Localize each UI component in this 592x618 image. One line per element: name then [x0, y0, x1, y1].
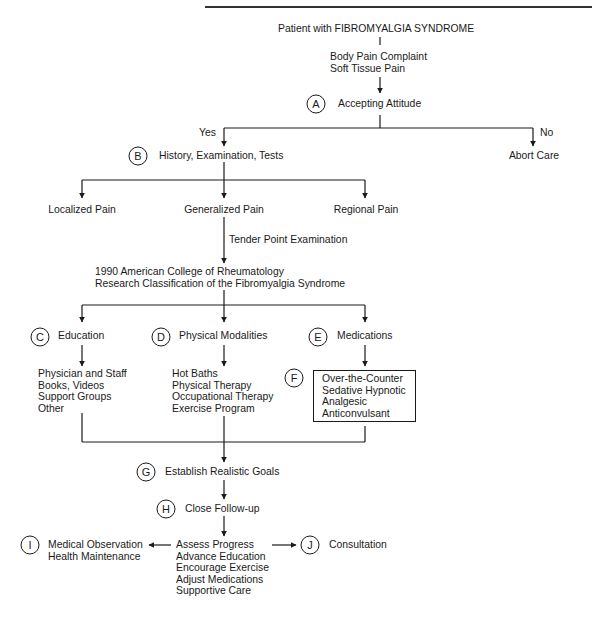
step-j-marker: J: [301, 536, 320, 555]
education-item: Other: [38, 403, 64, 415]
medication-item: Anticonvulsant: [322, 408, 390, 420]
step-g-label: Establish Realistic Goals: [165, 466, 279, 478]
step-e-label: Medications: [337, 330, 392, 342]
complaint-line-2: Soft Tissue Pain: [330, 63, 405, 75]
step-c-label: Education: [58, 330, 104, 342]
followup-item: Supportive Care: [176, 585, 251, 597]
step-a-label: Accepting Attitude: [338, 98, 421, 110]
medication-item: Over-the-Counter: [322, 373, 403, 385]
physical-item: Hot Baths: [172, 368, 218, 380]
complaint-line-1: Body Pain Complaint: [330, 51, 427, 63]
step-b-marker: B: [129, 147, 148, 166]
step-c-marker: C: [31, 328, 50, 347]
acr-line-1: 1990 American College of Rheumatology: [95, 266, 284, 278]
generalized-pain: Generalized Pain: [184, 204, 264, 216]
regional-pain: Regional Pain: [334, 204, 399, 216]
abort-care: Abort Care: [509, 150, 559, 162]
yes-label: Yes: [199, 127, 216, 139]
acr-line-2: Research Classification of the Fibromyal…: [95, 278, 345, 290]
education-item: Support Groups: [38, 391, 111, 403]
physical-item: Occupational Therapy: [172, 391, 273, 403]
step-d-marker: D: [152, 328, 171, 347]
step-h-marker: H: [157, 500, 176, 519]
no-label: No: [540, 127, 553, 139]
step-e-marker: E: [309, 328, 328, 347]
education-item: Physician and Staff: [38, 368, 127, 380]
step-d-label: Physical Modalities: [179, 330, 267, 342]
step-i-marker: I: [21, 536, 40, 555]
step-i-line-2: Health Maintenance: [48, 551, 140, 563]
step-g-marker: G: [137, 463, 156, 482]
localized-pain: Localized Pain: [48, 204, 116, 216]
followup-item: Assess Progress: [176, 539, 254, 551]
step-b-label: History, Examination, Tests: [159, 150, 283, 162]
step-j-label: Consultation: [329, 539, 387, 551]
step-i-line-1: Medical Observation: [48, 539, 143, 551]
followup-item: Encourage Exercise: [176, 562, 269, 574]
step-h-label: Close Follow-up: [185, 503, 260, 515]
start-node: Patient with FIBROMYALGIA SYNDROME: [278, 23, 474, 35]
flowchart-connectors: [0, 0, 592, 618]
tender-point-exam: Tender Point Examination: [229, 234, 347, 246]
step-f-marker: F: [285, 369, 304, 388]
fibromyalgia-flowchart: Patient with FIBROMYALGIA SYNDROME Body …: [0, 0, 592, 618]
step-a-marker: A: [307, 95, 326, 114]
physical-item: Exercise Program: [172, 403, 255, 415]
medication-item: Analgesic: [322, 396, 367, 408]
